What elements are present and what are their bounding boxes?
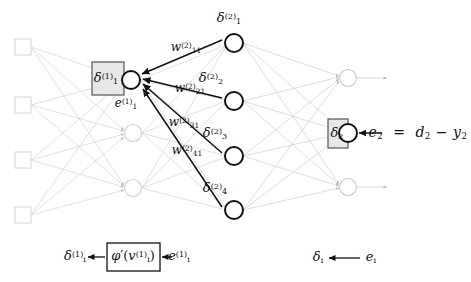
label-delta-2-output: δ2 xyxy=(331,126,344,141)
hidden2-node xyxy=(225,92,243,110)
hidden2-nodes xyxy=(225,34,243,219)
label-weight-31: w(2)31 xyxy=(169,116,199,129)
output-node xyxy=(340,70,357,87)
label-delta-1-2: δ(2)1 xyxy=(217,11,241,26)
legend-output-delta-label: δi xyxy=(313,250,323,265)
output-node xyxy=(340,179,357,196)
label-weight-11: w(2)11 xyxy=(171,41,201,54)
label-delta-4-2: δ(2)4 xyxy=(203,181,227,196)
legend-hidden-output-label: δ(1)i xyxy=(64,249,86,264)
input-layer-nodes xyxy=(15,39,31,223)
legend-hidden-input-label: e(1)i xyxy=(168,249,190,264)
label-delta-3-2: δ(2)3 xyxy=(203,126,227,141)
input-node xyxy=(15,39,31,55)
hidden2-node xyxy=(225,201,243,219)
label-weight-41: w(2)41 xyxy=(172,144,202,157)
hidden1-node xyxy=(125,125,142,142)
legend-phi-prime-label: φ′(v(1)i) xyxy=(111,249,155,264)
output-error-equation: e2 = d2 − y2 xyxy=(369,125,468,141)
input-node xyxy=(15,152,31,168)
legend-output-error-label: ei xyxy=(366,250,376,265)
hidden1-node-highlighted xyxy=(122,71,140,89)
neural-network-diagram xyxy=(0,0,471,282)
label-weight-21: w(2)21 xyxy=(175,82,205,95)
hidden1-node xyxy=(125,180,142,197)
label-error-1-1: e(1)1 xyxy=(115,97,137,110)
input-node xyxy=(15,97,31,113)
edges-hidden2-to-output xyxy=(243,43,341,210)
hidden2-node xyxy=(225,147,243,165)
label-delta-1-1: δ(1)1 xyxy=(94,71,118,86)
input-node xyxy=(15,207,31,223)
hidden2-node xyxy=(225,34,243,52)
hidden1-faded-nodes xyxy=(125,125,142,197)
